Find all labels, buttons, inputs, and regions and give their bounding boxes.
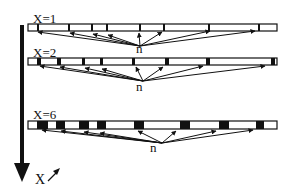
data-block xyxy=(139,24,141,31)
row-label: X=6 xyxy=(33,108,56,121)
pointer-arrow xyxy=(93,34,140,46)
diagram-rows xyxy=(28,24,277,143)
data-block xyxy=(219,121,229,129)
row-x-1 xyxy=(28,24,277,46)
diagram-canvas xyxy=(0,0,298,196)
data-block xyxy=(163,24,165,31)
data-block xyxy=(79,121,89,129)
pointer-arrow xyxy=(38,32,140,46)
data-block xyxy=(165,58,169,65)
data-block xyxy=(97,121,106,129)
memory-bar xyxy=(28,121,277,129)
data-block xyxy=(57,58,61,65)
pointer-origin-label: n xyxy=(150,141,157,154)
data-block xyxy=(68,24,70,31)
data-block xyxy=(258,24,260,31)
vertical-axis-arrow xyxy=(14,25,30,182)
pointer-origin-label: n xyxy=(136,80,143,93)
pointer-arrow xyxy=(85,68,143,81)
data-block xyxy=(256,121,264,129)
pointer-arrow xyxy=(143,66,203,81)
memory-bar xyxy=(28,24,277,31)
data-block xyxy=(132,58,135,65)
data-block xyxy=(91,24,93,31)
data-block xyxy=(208,24,210,31)
data-block xyxy=(56,121,65,129)
memory-bar xyxy=(28,58,277,65)
pointer-arrow xyxy=(162,131,216,143)
data-block xyxy=(134,121,144,129)
data-block xyxy=(100,58,103,65)
data-block xyxy=(82,58,85,65)
row-label: X=1 xyxy=(33,12,56,25)
data-block xyxy=(106,24,108,31)
data-block xyxy=(180,121,190,129)
pointer-origin-label: n xyxy=(136,42,143,55)
data-block xyxy=(37,121,48,129)
row-x-2 xyxy=(28,58,277,81)
data-block xyxy=(271,58,275,65)
pointer-arrow xyxy=(70,33,140,46)
row-label: X=2 xyxy=(33,46,56,59)
data-block xyxy=(206,58,210,65)
pointer-arrow xyxy=(60,67,143,81)
axis-label-x: X xyxy=(35,173,45,187)
axis-diagonal-arrow-icon xyxy=(48,168,60,181)
